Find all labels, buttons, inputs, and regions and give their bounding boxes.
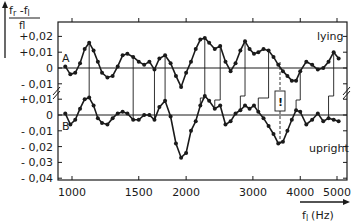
x-tick-labels: 100015002000300040005000 [58, 186, 351, 199]
svg-text:+0,01: +0,01 [19, 46, 53, 59]
axis-ticks [58, 18, 347, 180]
svg-text:4000: 4000 [286, 186, 314, 199]
svg-text:5000: 5000 [323, 186, 351, 199]
svg-text:- 0,02: - 0,02 [21, 141, 53, 154]
svg-text:2000: 2000 [172, 186, 200, 199]
axis-break-left [53, 87, 60, 99]
svg-text:1000: 1000 [58, 186, 86, 199]
series-upright [63, 94, 340, 160]
label-lying: lying [317, 30, 344, 43]
svg-text:- 0,04: - 0,04 [21, 172, 53, 185]
svg-text:+0,01: +0,01 [19, 93, 53, 106]
svg-text:+0,02: +0,02 [19, 30, 53, 43]
svg-text:3000: 3000 [239, 186, 267, 199]
series-a-tag: A [62, 52, 70, 65]
svg-text:fl(Hz): fl(Hz) [302, 209, 334, 223]
svg-text:1500: 1500 [125, 186, 153, 199]
svg-text:- 0,03: - 0,03 [21, 156, 53, 169]
line-chart: fr -fl fl +0,02+0,010- 0,01+0,010- 0,01-… [0, 0, 364, 224]
chart-container: fr -fl fl +0,02+0,010- 0,01+0,010- 0,01-… [0, 0, 364, 224]
y-axis-label: fr -fl fl [9, 4, 40, 31]
svg-text:!: ! [278, 96, 283, 109]
y-tick-labels: +0,02+0,010- 0,01+0,010- 0,01- 0,02- 0,0… [19, 30, 53, 185]
svg-text:0: 0 [46, 109, 53, 122]
svg-text:fl: fl [19, 20, 25, 31]
x-axis-label: fl(Hz) [300, 199, 350, 223]
svg-text:- 0,01: - 0,01 [21, 125, 53, 138]
label-upright: upright [309, 142, 349, 155]
y-axis-arrow [2, 1, 8, 58]
svg-text:0: 0 [46, 62, 53, 75]
svg-text:- 0,01: - 0,01 [21, 78, 53, 91]
series-b-tag: B [62, 120, 70, 133]
svg-text:fr -fl: fr -fl [9, 4, 30, 18]
series-lying [63, 36, 340, 89]
marker-box: ! [275, 62, 285, 146]
